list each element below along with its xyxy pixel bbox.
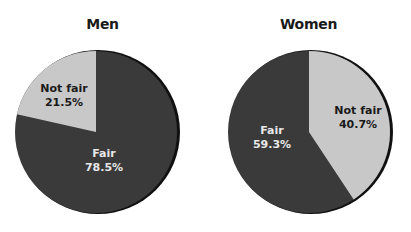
women-pie-svg: Not fair 40.7% Fair 59.3% [206, 0, 411, 232]
women-pie-chart: Women Not fair 40.7% Fair 59.3% [206, 0, 411, 232]
men-not-fair-label: Not fair [40, 82, 88, 95]
women-not-fair-label: Not fair [334, 104, 382, 117]
women-not-fair-pct: 40.7% [339, 118, 377, 131]
men-not-fair-pct: 21.5% [45, 96, 83, 109]
men-pie-chart: Men Not fair 21.5% Fair 78.5% [0, 0, 205, 232]
men-fair-pct: 78.5% [85, 161, 123, 174]
men-pie-svg: Not fair 21.5% Fair 78.5% [0, 0, 205, 232]
women-fair-pct: 59.3% [253, 138, 291, 151]
men-fair-label: Fair [92, 147, 116, 160]
women-fair-label: Fair [260, 124, 284, 137]
